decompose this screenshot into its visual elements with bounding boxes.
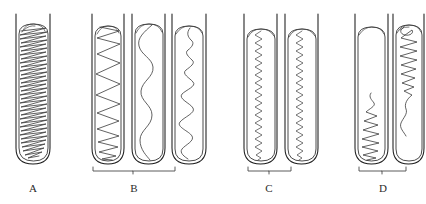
tube-group-d	[355, 14, 424, 164]
tube-c2-trace	[296, 31, 303, 160]
tube-d1	[355, 14, 388, 164]
bracket-b	[93, 167, 175, 174]
tube-b1	[92, 14, 124, 164]
figure-container: A B C D	[0, 0, 426, 204]
tube-group-a	[16, 14, 50, 164]
tube-b2-content-outline	[135, 24, 163, 161]
tube-b3-trace	[179, 28, 194, 159]
tube-d1-trace	[362, 93, 379, 160]
tube-group-c	[244, 14, 318, 164]
tube-c1-content-outline	[247, 29, 275, 161]
tube-d2-content-outline	[396, 25, 422, 161]
tube-b1-wall-left	[92, 14, 124, 164]
tube-a1	[16, 14, 50, 164]
tube-b3-content-outline	[175, 26, 203, 161]
tube-group-b	[92, 14, 206, 164]
tube-d2-trace	[400, 27, 417, 136]
tube-d2	[393, 14, 424, 164]
tube-c2-wall-left	[285, 14, 318, 164]
test-tube-diagram	[0, 0, 426, 204]
tube-b1-trace	[96, 27, 120, 160]
group-brackets	[93, 167, 406, 174]
tube-c2	[285, 14, 318, 164]
tube-a1-trace	[20, 28, 47, 158]
tube-c2-content-outline	[288, 29, 316, 161]
tube-c1-wall-left	[244, 14, 277, 164]
tube-b3	[172, 14, 206, 164]
tube-c1-trace	[255, 31, 262, 160]
bracket-d	[359, 167, 406, 174]
tube-b2	[132, 14, 165, 164]
tube-c1	[244, 14, 277, 164]
tube-b2-wall-left	[132, 14, 165, 164]
bracket-c	[248, 167, 291, 174]
tube-b2-trace	[139, 25, 153, 160]
